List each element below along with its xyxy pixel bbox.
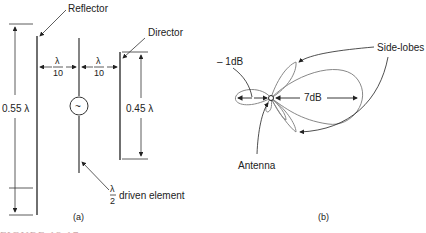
driven-element-label: driven element [119, 190, 185, 201]
director-label: Director [148, 27, 184, 38]
reflector-label: Reflector [68, 3, 109, 14]
driven-fraction-num: λ [110, 184, 115, 194]
spacing-left-den: 10 [53, 68, 63, 78]
driven-fraction-den: 2 [110, 196, 115, 206]
figure-a-labels: Reflector Director 0.55 λ 0.45 λ λ 10 λ … [2, 3, 185, 222]
lower-side-lobe [271, 98, 296, 132]
figure-a-sublabel: (a) [73, 212, 84, 222]
reflector-leader [40, 10, 66, 36]
back-lobe [235, 90, 271, 105]
figure-caption: FIGURE 13.17 [0, 229, 79, 233]
reflector-length-label: 0.55 λ [2, 103, 29, 114]
figure-b-sublabel: (b) [318, 212, 329, 222]
side-lobes-label: Side-lobes [377, 42, 424, 53]
yagi-antenna-figure: Reflector Director 0.55 λ 0.45 λ λ 10 λ … [0, 0, 426, 233]
spacing-right-num: λ [96, 56, 101, 66]
director-length-label: 0.45 λ [126, 103, 153, 114]
figure-b-annotations: 7dB – 1dB Side-lobes Antenna (b) [217, 42, 424, 222]
upper-side-lobe [271, 62, 296, 98]
spacing-left-num: λ [55, 56, 60, 66]
main-lobe-gain-label: 7dB [304, 92, 322, 103]
spacing-right-den: 10 [94, 68, 104, 78]
side-lobes-leader-upper [299, 47, 374, 62]
antenna-point-icon [269, 96, 274, 101]
back-lobe-gain-label: – 1dB [217, 56, 243, 67]
driven-leader [82, 162, 109, 190]
ac-source-symbol: ~ [75, 101, 81, 112]
antenna-label: Antenna [238, 160, 276, 171]
director-leader [123, 38, 145, 58]
